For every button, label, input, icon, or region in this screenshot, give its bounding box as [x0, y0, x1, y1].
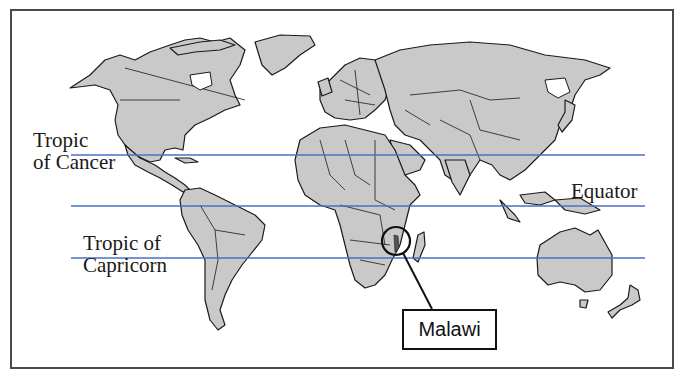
- australia: [537, 228, 612, 292]
- tropic-of-capricorn-label: Tropic of Capricorn: [83, 232, 167, 276]
- malawi-label: Malawi: [418, 318, 480, 341]
- greenland: [255, 35, 315, 75]
- equator-label: Equator: [571, 180, 637, 202]
- malawi-callout-box: Malawi: [402, 309, 497, 350]
- tropic-of-cancer-label: Tropic of Cancer: [33, 129, 115, 173]
- south-america: [180, 188, 265, 330]
